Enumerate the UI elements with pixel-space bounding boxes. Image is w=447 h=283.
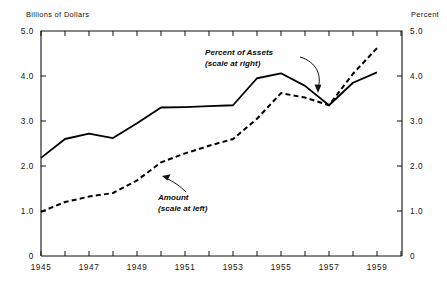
y2-axis-tick-label: 2.0 — [410, 162, 423, 171]
annotation-arrowhead-percent — [315, 85, 322, 93]
annotation-percent-of-assets: Percent of Assets (scale at right) — [205, 48, 273, 69]
x-axis-tick-label: 1953 — [223, 263, 244, 272]
x-axis-tick-label: 1957 — [319, 263, 340, 272]
annotation-leader-percent — [300, 57, 319, 88]
x-axis-tick-label: 1947 — [79, 263, 100, 272]
annotation-percent-line2: (scale at right) — [205, 59, 273, 70]
x-axis-tick-label: 1949 — [127, 263, 148, 272]
chart-figure: Billions of Dollars Percent 5.04.03.02.0… — [0, 0, 447, 283]
annotation-amount-line2: (scale at left) — [158, 204, 207, 215]
x-axis-tick-label: 1951 — [175, 263, 196, 272]
x-axis-tick-label: 1945 — [31, 263, 52, 272]
annotation-percent-line1: Percent of Assets — [205, 48, 273, 59]
y-axis-tick-label: 1.0 — [4, 207, 34, 216]
annotation-amount: Amount (scale at left) — [158, 193, 207, 214]
x-axis-tick-label: 1955 — [271, 263, 292, 272]
y2-axis-tick-label: 5.0 — [410, 27, 423, 36]
data-series-line — [41, 48, 377, 212]
y-axis-tick-label: 0 — [4, 252, 34, 261]
y2-axis-tick-label: 0 — [410, 252, 415, 261]
annotation-amount-line1: Amount — [158, 193, 207, 204]
y-axis-tick-label: 4.0 — [4, 72, 34, 81]
annotation-leader-amount — [166, 178, 186, 192]
y-axis-tick-label: 5.0 — [4, 27, 34, 36]
x-axis-tick-label: 1959 — [367, 263, 388, 272]
y2-axis-tick-label: 3.0 — [410, 117, 423, 126]
plot-area — [0, 0, 447, 283]
y-axis-tick-label: 3.0 — [4, 117, 34, 126]
y2-axis-tick-label: 1.0 — [410, 207, 423, 216]
y-axis-tick-label: 2.0 — [4, 162, 34, 171]
y2-axis-tick-label: 4.0 — [410, 72, 423, 81]
